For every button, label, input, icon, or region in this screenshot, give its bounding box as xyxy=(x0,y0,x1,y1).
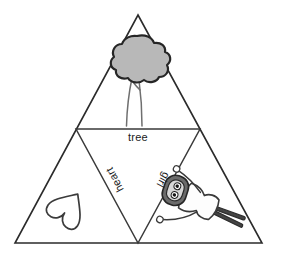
triangle-figure: tree heart xyxy=(0,0,281,259)
top-panel-tree-group: tree xyxy=(111,35,170,143)
tree-canopy-icon xyxy=(111,35,170,82)
label-heart-group: heart xyxy=(103,166,126,195)
label-heart: heart xyxy=(103,166,126,195)
right-panel-girl-group: girl xyxy=(146,164,254,258)
figure-canvas: tree heart xyxy=(0,0,281,259)
label-tree: tree xyxy=(128,131,148,143)
heart-icon xyxy=(44,184,93,232)
girl-hand-right xyxy=(156,215,165,224)
tree-trunk-icon xyxy=(127,78,143,126)
